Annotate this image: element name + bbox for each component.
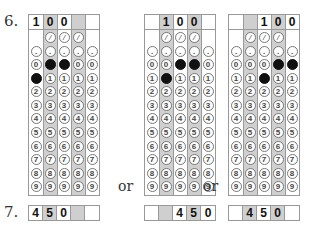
digit-bubble-5[interactable]: 5 [231,127,242,138]
digit-bubble-9[interactable]: 9 [245,181,256,192]
digit-bubble-6[interactable]: 6 [73,141,84,152]
answer-digit-cell[interactable] [71,206,85,220]
digit-bubble-5[interactable]: 5 [87,127,98,138]
digit-bubble-0[interactable]: 0 [147,59,158,70]
digit-bubble-7[interactable]: 7 [87,154,98,165]
answer-digit-cell[interactable]: 0 [271,15,285,30]
decimal-point-bubble[interactable]: . [189,46,200,57]
digit-bubble-4[interactable]: 4 [59,113,70,124]
digit-bubble-2[interactable]: 2 [203,86,214,97]
digit-bubble-4[interactable]: 4 [161,113,172,124]
digit-bubble-2[interactable]: 2 [259,86,270,97]
digit-bubble-0[interactable]: 0 [73,59,84,70]
digit-bubble-0[interactable]: 0 [203,59,214,70]
digit-bubble-9[interactable]: 9 [31,181,42,192]
digit-bubble-8[interactable]: 8 [245,168,256,179]
digit-bubble-5[interactable]: 5 [175,127,186,138]
digit-bubble-6[interactable]: 6 [45,141,56,152]
answer-digit-cell[interactable]: 0 [201,206,215,220]
decimal-point-bubble[interactable]: . [259,46,270,57]
digit-bubble-3[interactable]: 3 [231,100,242,111]
digit-bubble-1[interactable]: 1 [203,73,214,84]
decimal-point-bubble[interactable]: . [203,46,214,57]
digit-bubble-2[interactable]: 2 [231,86,242,97]
fraction-slash-bubble[interactable]: / [245,32,256,43]
digit-bubble-3[interactable]: 3 [147,100,158,111]
digit-bubble-7[interactable]: 7 [161,154,172,165]
answer-digit-cell[interactable]: 0 [57,206,71,220]
digit-bubble-2[interactable]: 2 [273,86,284,97]
digit-bubble-5[interactable]: 5 [287,127,298,138]
digit-bubble-1[interactable]: 1 [31,73,42,84]
digit-bubble-4[interactable]: 4 [45,113,56,124]
digit-bubble-6[interactable]: 6 [231,141,242,152]
digit-bubble-9[interactable]: 9 [45,181,56,192]
digit-bubble-7[interactable]: 7 [45,154,56,165]
decimal-point-bubble[interactable]: . [161,46,172,57]
digit-bubble-8[interactable]: 8 [73,168,84,179]
fraction-slash-bubble[interactable]: / [189,32,200,43]
answer-digit-cell[interactable]: 0 [173,15,187,30]
answer-digit-cell[interactable]: 1 [29,15,43,30]
digit-bubble-1[interactable]: 1 [287,73,298,84]
digit-bubble-2[interactable]: 2 [59,86,70,97]
digit-bubble-8[interactable]: 8 [259,168,270,179]
digit-bubble-9[interactable]: 9 [87,181,98,192]
digit-bubble-5[interactable]: 5 [31,127,42,138]
digit-bubble-7[interactable]: 7 [189,154,200,165]
digit-bubble-2[interactable]: 2 [189,86,200,97]
answer-digit-cell[interactable] [229,206,243,220]
digit-bubble-3[interactable]: 3 [259,100,270,111]
digit-bubble-5[interactable]: 5 [259,127,270,138]
answer-digit-cell[interactable]: 5 [257,206,271,220]
answer-digit-cell[interactable] [145,15,159,30]
fraction-slash-bubble[interactable]: / [45,32,56,43]
digit-bubble-1[interactable]: 1 [59,73,70,84]
digit-bubble-1[interactable]: 1 [147,73,158,84]
digit-bubble-0[interactable]: 0 [175,59,186,70]
answer-digit-cell[interactable] [145,206,159,220]
answer-digit-cell[interactable] [71,15,85,30]
digit-bubble-6[interactable]: 6 [31,141,42,152]
digit-bubble-9[interactable]: 9 [231,181,242,192]
digit-bubble-9[interactable]: 9 [175,181,186,192]
decimal-point-bubble[interactable]: . [45,46,56,57]
digit-bubble-3[interactable]: 3 [175,100,186,111]
digit-bubble-3[interactable]: 3 [273,100,284,111]
fraction-slash-bubble[interactable]: / [175,32,186,43]
digit-bubble-2[interactable]: 2 [175,86,186,97]
digit-bubble-4[interactable]: 4 [147,113,158,124]
digit-bubble-1[interactable]: 1 [73,73,84,84]
decimal-point-bubble[interactable]: . [73,46,84,57]
answer-digit-cell[interactable] [229,15,243,30]
digit-bubble-0[interactable]: 0 [59,59,70,70]
digit-bubble-7[interactable]: 7 [31,154,42,165]
digit-bubble-3[interactable]: 3 [161,100,172,111]
digit-bubble-2[interactable]: 2 [287,86,298,97]
digit-bubble-8[interactable]: 8 [287,168,298,179]
digit-bubble-6[interactable]: 6 [87,141,98,152]
digit-bubble-6[interactable]: 6 [259,141,270,152]
digit-bubble-1[interactable]: 1 [175,73,186,84]
digit-bubble-5[interactable]: 5 [59,127,70,138]
fraction-slash-bubble[interactable]: / [161,32,172,43]
digit-bubble-7[interactable]: 7 [147,154,158,165]
digit-bubble-8[interactable]: 8 [45,168,56,179]
digit-bubble-3[interactable]: 3 [203,100,214,111]
digit-bubble-8[interactable]: 8 [273,168,284,179]
digit-bubble-9[interactable]: 9 [73,181,84,192]
digit-bubble-1[interactable]: 1 [245,73,256,84]
answer-digit-cell[interactable]: 4 [173,206,187,220]
digit-bubble-1[interactable]: 1 [87,73,98,84]
digit-bubble-4[interactable]: 4 [245,113,256,124]
decimal-point-bubble[interactable]: . [273,46,284,57]
digit-bubble-5[interactable]: 5 [73,127,84,138]
digit-bubble-6[interactable]: 6 [189,141,200,152]
digit-bubble-9[interactable]: 9 [259,181,270,192]
digit-bubble-8[interactable]: 8 [175,168,186,179]
digit-bubble-2[interactable]: 2 [161,86,172,97]
answer-digit-cell[interactable] [201,15,215,30]
digit-bubble-7[interactable]: 7 [231,154,242,165]
digit-bubble-7[interactable]: 7 [203,154,214,165]
digit-bubble-2[interactable]: 2 [245,86,256,97]
